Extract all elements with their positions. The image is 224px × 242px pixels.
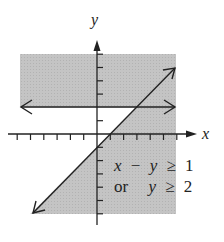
- x-axis-label: x: [201, 125, 209, 142]
- inequality-graph: y x x − y ≥ 1 or y ≥ 2: [0, 0, 224, 242]
- inequality-line-2: or y ≥ 2: [114, 177, 192, 196]
- y-axis-arrow-icon: [94, 40, 101, 51]
- inequality-line-1: x − y ≥ 1: [113, 156, 194, 175]
- y-axis-label: y: [89, 11, 99, 29]
- graph-canvas: y x x − y ≥ 1 or y ≥ 2: [0, 0, 224, 242]
- x-axis-arrow-icon: [186, 131, 197, 138]
